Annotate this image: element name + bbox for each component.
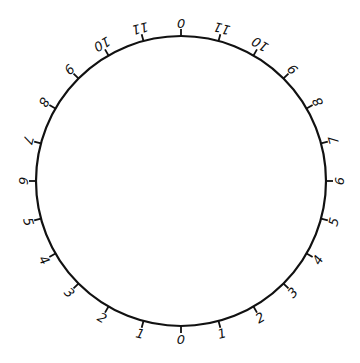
dial-label: 8 (309, 95, 326, 110)
dial-label: 0 (177, 332, 185, 347)
dial-label: 3 (284, 284, 300, 300)
dial-label: 1 (216, 325, 228, 342)
dial-label: 0 (177, 16, 185, 31)
dial-label: 4 (36, 253, 53, 268)
dial-label: 2 (253, 309, 268, 326)
dial-label: 10 (91, 34, 113, 55)
dial-label: 3 (61, 284, 77, 300)
dial-label: 11 (212, 19, 232, 38)
dial-label: 9 (284, 61, 300, 77)
dial-label: 6 (332, 177, 347, 185)
dial-labels: 0111098765432101234567891011 (16, 16, 347, 347)
dial-label: 7 (20, 134, 37, 147)
dial-label: 9 (61, 61, 77, 77)
dial-label: 1 (134, 325, 146, 342)
circular-dial: 0111098765432101234567891011 (0, 0, 360, 363)
dial-label: 6 (16, 177, 31, 185)
dial-label: 11 (130, 19, 150, 38)
dial-label: 8 (36, 95, 53, 110)
dial-label: 7 (325, 133, 342, 146)
dial-label: 5 (325, 216, 342, 228)
dial-label: 4 (309, 253, 326, 268)
dial-label: 2 (95, 309, 110, 326)
dial-label: 10 (249, 34, 271, 55)
dial-circle (36, 36, 326, 326)
dial-label: 5 (20, 216, 37, 228)
